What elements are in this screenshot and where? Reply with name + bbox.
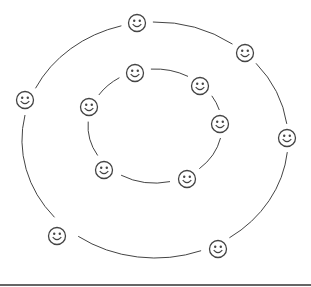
diagram-canvas [0,0,311,287]
inner-ring-arc [88,122,98,156]
outer-ring-arc [256,63,287,124]
outer-ring-arc [22,115,55,217]
smiley-face-icon [49,228,66,245]
inner-ring-arc [212,96,220,110]
smiley-face-icon [127,65,144,82]
smiley-face-icon [212,116,229,133]
outer-ring-arc [153,22,233,44]
smiley-face-icon [210,241,227,258]
outer-ring-arc [36,26,122,89]
smiley-face-icon [96,162,113,179]
inner-ring-arc [199,138,220,169]
inner-ring-arc [151,69,188,76]
smiley-face-icon [237,45,254,62]
smiley-face-icon [17,92,34,109]
inner-ring-arc [99,78,120,95]
smiley-face-icon [179,171,196,188]
outer-ring-arc [229,152,287,238]
smiley-face-icon [81,99,98,116]
inner-ring-arc [121,175,170,183]
smiley-face-icon [279,130,296,147]
smiley-face-icon [192,78,209,95]
smiley-faces [17,15,296,258]
outer-ring-arc [78,236,201,258]
smiley-face-icon [129,15,146,32]
